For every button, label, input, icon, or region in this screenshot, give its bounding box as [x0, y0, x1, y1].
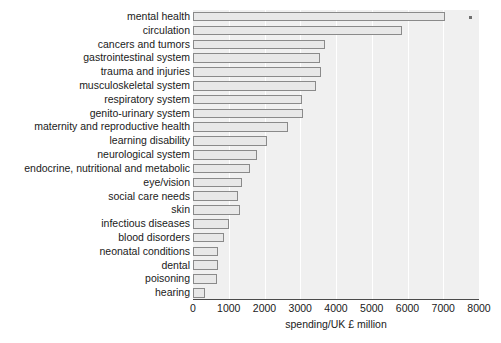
category-label: neonatal conditions [100, 245, 191, 259]
x-tick-label: 3000 [289, 302, 312, 314]
category-label: trauma and injuries [101, 65, 190, 79]
category-label: gastrointestinal system [83, 51, 190, 65]
x-tick-label: 4000 [324, 302, 347, 314]
category-label: learning disability [109, 134, 190, 148]
category-label: musculoskeletal system [79, 79, 190, 93]
category-label: respiratory system [104, 93, 190, 107]
category-label: genito-urinary system [90, 107, 190, 121]
category-label: neurological system [97, 148, 190, 162]
category-label: endocrine, nutritional and metabolic [24, 162, 190, 176]
category-label: maternity and reproductive health [34, 120, 190, 134]
category-label: poisoning [145, 272, 190, 286]
category-label: circulation [143, 24, 190, 38]
category-label: hearing [155, 286, 190, 300]
category-label: dental [161, 259, 190, 273]
category-label: skin [171, 203, 190, 217]
category-label: mental health [127, 10, 190, 24]
x-axis-title: spending/UK £ million [193, 318, 479, 330]
category-label: blood disorders [118, 231, 190, 245]
x-tick-label: 0 [190, 302, 196, 314]
x-tick-label: 7000 [432, 302, 455, 314]
x-tick-label: 5000 [360, 302, 383, 314]
category-label: eye/vision [143, 176, 190, 190]
stray-marker-dot [469, 16, 472, 19]
x-tick-label: 2000 [253, 302, 276, 314]
x-tick-label: 1000 [217, 302, 240, 314]
category-label: cancers and tumors [98, 38, 190, 52]
x-tick-label: 6000 [396, 302, 419, 314]
bar-chart-figure: mental healthcirculationcancers and tumo… [0, 0, 501, 343]
x-tick-label: 8000 [467, 302, 490, 314]
category-axis-labels: mental healthcirculationcancers and tumo… [0, 10, 501, 300]
category-label: infectious diseases [101, 217, 190, 231]
category-label: social care needs [108, 190, 190, 204]
